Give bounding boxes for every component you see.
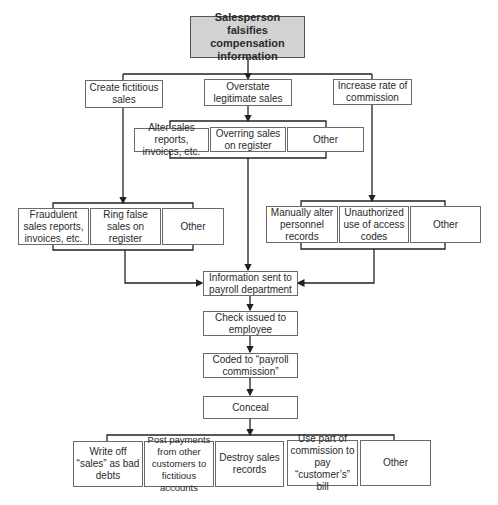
root-node: Salesperson falsifies compensation infor… <box>190 16 305 58</box>
node-unauthorized-access-codes: Unauthorized use of access codes <box>339 206 409 243</box>
node-coded-payroll-commission: Coded to “payroll commission” <box>203 353 298 378</box>
node-overring-sales: Overring sales on register <box>210 127 286 152</box>
node-create-fictitious-sales: Create fictitious sales <box>85 80 163 108</box>
connector-lines <box>0 0 498 505</box>
node-manually-alter-personnel: Manually alter personnel records <box>266 206 338 243</box>
node-fictitious-other: Other <box>162 208 224 245</box>
node-info-sent-to-payroll: Information sent to payroll department <box>203 271 298 296</box>
node-overstate-other: Other <box>287 127 364 152</box>
node-commission-other: Other <box>410 206 481 243</box>
node-write-off-bad-debts: Write off “sales” as bad debts <box>73 441 143 487</box>
node-destroy-sales-records: Destroy sales records <box>215 441 284 487</box>
node-ring-false-sales: Ring false sales on register <box>90 208 161 245</box>
node-conceal-other: Other <box>360 440 431 486</box>
node-check-issued: Check issued to employee <box>203 311 298 336</box>
node-post-payments-fictitious: Post payments from other customers to fi… <box>144 441 214 487</box>
node-use-commission-pay-bill: Use part of commission to pay “customer’… <box>287 440 358 486</box>
node-overstate-legitimate-sales: Overstate legitimate sales <box>204 79 292 106</box>
node-conceal: Conceal <box>203 396 298 419</box>
node-fraudulent-sales-reports: Fraudulent sales reports, invoices, etc. <box>18 208 89 245</box>
node-alter-sales-reports: Alter sales reports, invoices, etc. <box>134 128 209 152</box>
node-increase-commission-rate: Increase rate of commission <box>333 79 412 105</box>
